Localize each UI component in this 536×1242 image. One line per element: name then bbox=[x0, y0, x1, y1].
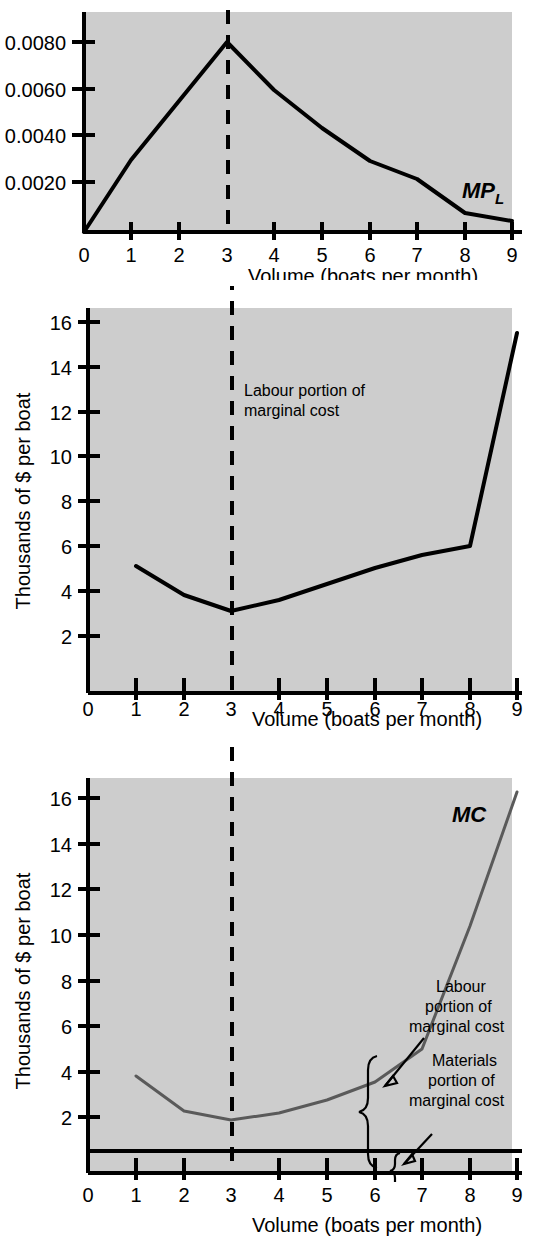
x-tick-label: 9 bbox=[511, 1184, 522, 1206]
x-axis-tick-labels: 0 1 2 3 4 5 6 7 8 9 bbox=[78, 244, 517, 266]
y-tick-label: 0.0060 bbox=[5, 79, 66, 101]
x-tick-label: 9 bbox=[506, 244, 517, 266]
y-tick-label: 12 bbox=[50, 879, 72, 901]
y-axis-title: Thousands of $ per boat bbox=[12, 392, 34, 609]
panel-2-svg: 2 4 6 8 10 12 14 16 0 1 bbox=[0, 286, 536, 716]
y-tick-label: 16 bbox=[50, 788, 72, 810]
x-axis-title: Volume (boats per month) bbox=[252, 1214, 482, 1236]
x-tick-label: 1 bbox=[130, 1184, 141, 1206]
x-axis-tick-labels: 0 1 2 3 4 5 6 7 8 9 bbox=[82, 1184, 522, 1206]
panel-3-svg: 2 4 6 8 10 12 14 16 0 1 bbox=[0, 736, 536, 1242]
y-tick-label: 4 bbox=[61, 1062, 72, 1084]
annotation-line-3: marginal cost bbox=[409, 1092, 505, 1109]
annotation-line-2: portion of bbox=[428, 1072, 495, 1089]
x-tick-label: 5 bbox=[321, 1184, 332, 1206]
x-axis-title: Volume (boats per month) bbox=[252, 708, 482, 730]
x-tick-label: 6 bbox=[364, 244, 375, 266]
annotation-line-1: Materials bbox=[432, 1052, 497, 1069]
y-axis-tick-labels: 0.0020 0.0040 0.0060 0.0080 bbox=[5, 32, 66, 194]
x-tick-label: 3 bbox=[221, 244, 232, 266]
y-axis-tick-labels: 2 4 6 8 10 12 14 16 bbox=[50, 788, 72, 1129]
annotation-line-1: Labour bbox=[436, 978, 486, 995]
x-tick-label: 5 bbox=[316, 244, 327, 266]
y-tick-label: 0.0080 bbox=[5, 32, 66, 54]
y-tick-label: 8 bbox=[61, 971, 72, 993]
x-tick-label: 7 bbox=[416, 1184, 427, 1206]
y-tick-label: 6 bbox=[61, 1016, 72, 1038]
x-tick-label: 0 bbox=[78, 244, 89, 266]
series-label-mc: MC bbox=[452, 802, 487, 827]
y-tick-label: 8 bbox=[61, 491, 72, 513]
x-tick-label: 4 bbox=[273, 1184, 284, 1206]
y-tick-label: 2 bbox=[61, 1107, 72, 1129]
y-tick-label: 10 bbox=[50, 925, 72, 947]
panel-2-xaxis-title-wrap: Volume (boats per month) bbox=[0, 706, 536, 734]
three-panel-cost-figure: 0.0020 0.0040 0.0060 0.0080 0 1 2 3 bbox=[0, 0, 536, 1242]
x-tick-label: 8 bbox=[459, 244, 470, 266]
x-tick-label: 7 bbox=[411, 244, 422, 266]
y-tick-label: 6 bbox=[61, 536, 72, 558]
y-tick-label: 14 bbox=[50, 834, 72, 856]
panel-marginal-cost: 2 4 6 8 10 12 14 16 0 1 bbox=[0, 736, 536, 1242]
x-tick-label: 8 bbox=[464, 1184, 475, 1206]
annotation-line-2: portion of bbox=[425, 998, 492, 1015]
annotation-line-1: Labour portion of bbox=[244, 382, 366, 399]
x-tick-label: 2 bbox=[178, 1184, 189, 1206]
x-tick-label: 6 bbox=[369, 1184, 380, 1206]
y-tick-label: 0.0040 bbox=[5, 125, 66, 147]
x-tick-label: 1 bbox=[125, 244, 136, 266]
y-tick-label: 4 bbox=[61, 581, 72, 603]
y-axis-title: Thousands of $ per boat bbox=[12, 872, 34, 1089]
x-tick-label: 3 bbox=[225, 1184, 236, 1206]
panel-labour-portion-of-marginal-cost: 2 4 6 8 10 12 14 16 0 1 bbox=[0, 286, 536, 706]
annotation-line-2: marginal cost bbox=[244, 402, 340, 419]
plot-area-background bbox=[88, 308, 512, 693]
y-tick-label: 14 bbox=[50, 357, 72, 379]
y-tick-label: 10 bbox=[50, 446, 72, 468]
y-tick-label: 12 bbox=[50, 402, 72, 424]
plot-area-background bbox=[88, 778, 512, 1173]
x-tick-label: 2 bbox=[173, 244, 184, 266]
x-tick-label: 0 bbox=[82, 1184, 93, 1206]
panel-2-xtitle-svg: Volume (boats per month) bbox=[0, 706, 536, 734]
panel-1-svg: 0.0020 0.0040 0.0060 0.0080 0 1 2 3 bbox=[0, 0, 536, 280]
annotation-line-3: marginal cost bbox=[409, 1018, 505, 1035]
y-tick-label: 16 bbox=[50, 312, 72, 334]
panel-marginal-product-of-labour: 0.0020 0.0040 0.0060 0.0080 0 1 2 3 bbox=[0, 0, 536, 280]
x-axis-title: Volume (boats per month) bbox=[248, 265, 478, 280]
y-tick-label: 2 bbox=[61, 626, 72, 648]
y-tick-label: 0.0020 bbox=[5, 172, 66, 194]
x-tick-label: 4 bbox=[268, 244, 279, 266]
y-axis-tick-labels: 2 4 6 8 10 12 14 16 bbox=[50, 312, 72, 648]
